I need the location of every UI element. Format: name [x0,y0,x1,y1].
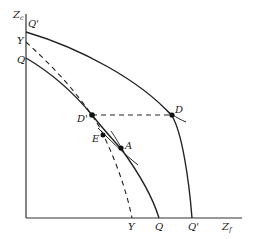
label-q-prime-bottom: Q' [188,221,199,232]
x-axis-label: Zf [221,221,233,234]
label-q-bottom: Q [155,221,163,232]
label-q-left: Q [17,54,25,65]
point-a [118,145,123,150]
label-y-left: Y [17,35,25,46]
label-d-prime: D' [76,113,88,124]
point-e [101,133,106,138]
production-possibility-diagram: Zc Zf Q' Y Q Y Q Q' D D' E A [0,0,262,239]
label-d: D [174,104,183,115]
label-y-bottom: Y [128,221,136,232]
y-axis-label: Zc [12,9,24,22]
point-d-prime [89,112,95,118]
point-d [169,112,174,117]
diagram-canvas: Zc Zf Q' Y Q Y Q Q' D D' E A [0,0,262,239]
label-a: A [124,140,132,151]
curve-q-prime [26,32,192,218]
label-q-prime-left: Q' [28,18,39,29]
label-e: E [91,133,100,144]
